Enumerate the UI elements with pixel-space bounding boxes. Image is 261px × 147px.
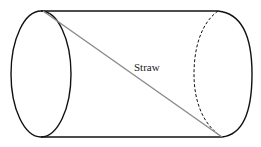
cylinder-back-face-visible (218, 11, 252, 137)
cylinder-drawing (0, 0, 261, 147)
cylinder-back-face-hidden (194, 11, 222, 137)
straw-line (43, 11, 222, 137)
cylinder-diagram: Straw (0, 0, 261, 147)
straw-label: Straw (134, 61, 160, 73)
cylinder-front-face (11, 11, 71, 137)
